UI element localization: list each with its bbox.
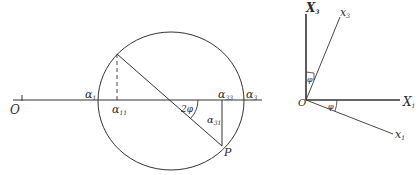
phi-top-label: φ	[307, 75, 313, 84]
X3-label: X3	[305, 1, 320, 15]
alpha33-label: α33	[218, 88, 233, 101]
origin-label: O	[10, 103, 20, 117]
x3-label: x3	[340, 6, 350, 19]
alpha11-label: α11	[112, 103, 127, 116]
angle-2phi-label: 2φ	[180, 104, 194, 114]
alpha3-label: α3	[246, 88, 257, 101]
axis-rotation-figure	[306, 14, 400, 134]
alpha31-label: α31	[207, 114, 221, 126]
alpha1-label: α1	[85, 88, 96, 101]
phi-bottom-label: φ	[328, 102, 334, 111]
phi-arc-bottom	[335, 100, 337, 111]
x1-label: x1	[395, 128, 405, 141]
point-p-label: P	[223, 146, 232, 159]
diagram-canvas: O α1 α11 2φ α33 α3 α31 P X3 x3 φ O φ X1 …	[0, 0, 418, 175]
X1-label: X1	[402, 95, 415, 109]
x1-axis	[306, 100, 393, 134]
left-labels: O α1 α11 2φ α33 α3 α31 P	[10, 88, 257, 159]
origin-O-label: O	[298, 97, 306, 108]
x3-axis	[306, 17, 340, 100]
